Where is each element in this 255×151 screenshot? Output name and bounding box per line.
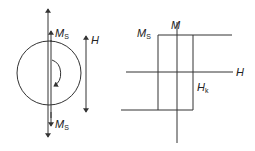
particle-diagram: MS MS H xyxy=(17,9,99,137)
hk-label: Hk xyxy=(197,81,209,94)
field-label: H xyxy=(91,34,99,46)
ms-label: MS xyxy=(137,27,151,40)
m-axis-label: M xyxy=(171,19,181,31)
h-axis-label: H xyxy=(236,66,244,78)
ms-bottom-label: MS xyxy=(55,118,69,131)
rotation-arrow-icon xyxy=(52,60,61,86)
particle-circle xyxy=(17,41,81,105)
hysteresis-loop: M MS H Hk xyxy=(121,19,244,143)
ms-top-label: MS xyxy=(55,27,69,40)
diagram-canvas: MS MS H M MS H Hk xyxy=(0,0,255,151)
